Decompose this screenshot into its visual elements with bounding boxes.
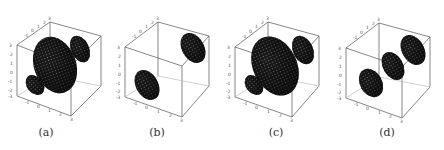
caption-c: (c): [256, 126, 296, 139]
axis-tick-label: 2: [279, 113, 282, 118]
axis-tick-label: 3: [338, 46, 341, 51]
axis-tick-label: 0: [249, 29, 252, 34]
axis-tick-label: 0: [118, 72, 121, 77]
axis-tick-label: 0: [366, 106, 369, 111]
axis-tick-label: 2: [43, 20, 46, 25]
isosurface-lobe: [354, 65, 388, 102]
axis-tick-label: -1: [132, 34, 137, 39]
axis-tick-label: -1: [24, 33, 29, 38]
axis-tick-label: -3: [116, 95, 121, 100]
axis-tick-label: 2: [389, 114, 392, 119]
caption-b: (b): [137, 126, 177, 139]
axis-tick-label: -1: [354, 102, 359, 107]
axis-tick-label: 3: [400, 119, 403, 124]
axis-tick-label: 0: [10, 70, 13, 75]
axis-tick-label: -2: [116, 89, 121, 94]
axis-tick-label: 2: [228, 54, 231, 59]
axis-tick-label: 1: [267, 109, 270, 114]
axis-tick-label: -1: [242, 34, 247, 39]
axis-tick-label: 2: [339, 55, 342, 60]
axis-ticks: 3 2 1 0 -1 -2 -3 -1 0 1 2 3 -1 0 1 2 3: [116, 16, 183, 123]
axis-tick-label: 1: [145, 24, 148, 29]
axis-tick-label: -1: [116, 81, 121, 86]
axis-tick-label: 0: [139, 29, 142, 34]
axis-tick-label: 2: [118, 54, 121, 59]
axis-tick-label: 0: [37, 104, 40, 109]
axis-tick-label: 3: [266, 16, 269, 21]
axis-tick-label: 1: [157, 109, 160, 114]
axis-tick-label: -1: [8, 79, 13, 84]
axis-tick-label: 0: [255, 105, 258, 110]
axis-tick-label: -1: [243, 101, 248, 106]
axis-tick-label: 2: [169, 113, 172, 118]
axis-tick-label: 3: [290, 118, 293, 123]
panel-c: 3 2 1 0 -1 -2 -3 -1 0 1 2 3 -1 0 1 2 3 (…: [222, 0, 333, 150]
isosurface-lobe: [175, 29, 210, 68]
axis-tick-label: 1: [10, 61, 13, 66]
axis-tick-label: 1: [228, 63, 231, 68]
axis-tick-label: 2: [59, 112, 62, 117]
axis-tick-label: 3: [180, 118, 183, 123]
axis-tick-label: 1: [37, 24, 40, 29]
axis-tick-label: 1: [366, 25, 369, 30]
caption-a: (a): [26, 126, 66, 139]
axis-tick-label: 1: [255, 24, 258, 29]
panel-a: 3 2 1 0 -1 -2 -3 -1 0 1 2 3 -1 0 1 2 3 (…: [4, 0, 115, 150]
axis-tick-label: 3: [9, 43, 12, 48]
axis-tick-label: 3: [117, 45, 120, 50]
isosurface-plot-c: 3 2 1 0 -1 -2 -3 -1 0 1 2 3 -1 0 1 2 3: [222, 0, 333, 130]
axis-tick-label: -1: [353, 35, 358, 40]
axis-tick-label: -3: [226, 95, 231, 100]
axis-tick-label: -1: [226, 81, 231, 86]
panel-b: 3 2 1 0 -1 -2 -3 -1 0 1 2 3 -1 0 1 2 3 (…: [112, 0, 223, 150]
axis-tick-label: 3: [156, 16, 159, 21]
axis-tick-label: 3: [227, 45, 230, 50]
axis-tick-label: 2: [151, 20, 154, 25]
axis-tick-label: -1: [337, 82, 342, 87]
axis-tick-label: 1: [339, 64, 342, 69]
axis-tick-label: 1: [378, 110, 381, 115]
axis-tick-label: -2: [8, 88, 13, 93]
axis-tick-label: 0: [228, 72, 231, 77]
isosurface-plot-d: 3 2 1 0 -1 -2 -3 -1 0 1 2 3 -1 0 1 2 3: [333, 0, 444, 130]
axis-tick-label: 3: [70, 117, 73, 122]
axis-tick-label: 0: [145, 105, 148, 110]
axis-tick-label: 2: [10, 52, 13, 57]
isosurface-lobe: [129, 66, 164, 105]
caption-d: (d): [367, 126, 407, 139]
axis-tick-label: -3: [8, 94, 13, 99]
axis-tick-label: -2: [337, 90, 342, 95]
axis-tick-label: 2: [261, 20, 264, 25]
axis-tick-label: 0: [31, 28, 34, 33]
axis-tick-label: -3: [337, 96, 342, 101]
axis-tick-label: 3: [377, 17, 380, 22]
axis-tick-label: 1: [48, 108, 51, 113]
isosurface-plot-b: 3 2 1 0 -1 -2 -3 -1 0 1 2 3 -1 0 1 2 3: [112, 0, 223, 130]
axis-tick-label: -1: [133, 101, 138, 106]
axis-tick-label: -1: [25, 100, 30, 105]
axis-tick-label: -2: [226, 89, 231, 94]
axis-tick-label: 3: [48, 16, 51, 21]
axis-tick-label: 1: [118, 63, 121, 68]
axis-tick-label: 0: [360, 30, 363, 35]
axis-tick-label: 0: [339, 73, 342, 78]
isosurface-plot-a: 3 2 1 0 -1 -2 -3 -1 0 1 2 3 -1 0 1 2 3: [4, 0, 115, 130]
axis-tick-label: 2: [372, 21, 375, 26]
panel-d: 3 2 1 0 -1 -2 -3 -1 0 1 2 3 -1 0 1 2 3 (…: [333, 0, 444, 150]
